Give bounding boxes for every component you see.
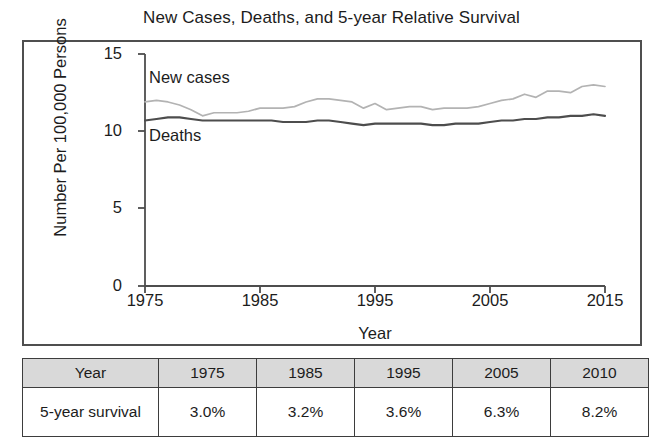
series-annotation-new-cases: New cases <box>149 68 230 87</box>
x-tick-label-2005: 2005 <box>459 291 521 310</box>
x-tick-label-1995: 1995 <box>344 291 406 310</box>
x-tick-label-1975: 1975 <box>114 291 176 310</box>
chart-title: New Cases, Deaths, and 5-year Relative S… <box>0 8 663 28</box>
table-header-1995: 1995 <box>355 359 453 388</box>
y-tick-label-15: 15 <box>88 44 122 63</box>
survival-data-table: Year 1975 1985 1995 2005 2010 5-year sur… <box>22 358 649 437</box>
axes-group <box>138 54 605 293</box>
table-header-1985: 1985 <box>257 359 355 388</box>
table-cell-1995: 3.6% <box>355 388 453 437</box>
x-tick-label-2015: 2015 <box>574 291 636 310</box>
table-cell-2010: 8.2% <box>551 388 649 437</box>
y-tick-label-10: 10 <box>88 121 122 140</box>
figure-container: New Cases, Deaths, and 5-year Relative S… <box>0 0 663 441</box>
x-tick-label-1985: 1985 <box>229 291 291 310</box>
y-axis-label: Number Per 100,000 Persons <box>51 18 70 238</box>
y-tick-label-5: 5 <box>88 198 122 217</box>
table-cell-2005: 6.3% <box>453 388 551 437</box>
x-axis-label: Year <box>140 324 610 343</box>
table-header-row: Year 1975 1985 1995 2005 2010 <box>23 359 649 388</box>
y-axis-label-text: Number Per 100,000 Persons <box>51 18 69 236</box>
table-cell-1985: 3.2% <box>257 388 355 437</box>
series-line-deaths <box>145 114 605 125</box>
table-row-label: 5-year survival <box>23 388 159 437</box>
series-line-new-cases <box>145 85 605 116</box>
table-header-year: Year <box>23 359 159 388</box>
series-annotation-deaths: Deaths <box>149 126 201 145</box>
table-header-2005: 2005 <box>453 359 551 388</box>
table-header-2010: 2010 <box>551 359 649 388</box>
table-cell-1975: 3.0% <box>159 388 257 437</box>
table-row: 5-year survival 3.0% 3.2% 3.6% 6.3% 8.2% <box>23 388 649 437</box>
table-header-1975: 1975 <box>159 359 257 388</box>
